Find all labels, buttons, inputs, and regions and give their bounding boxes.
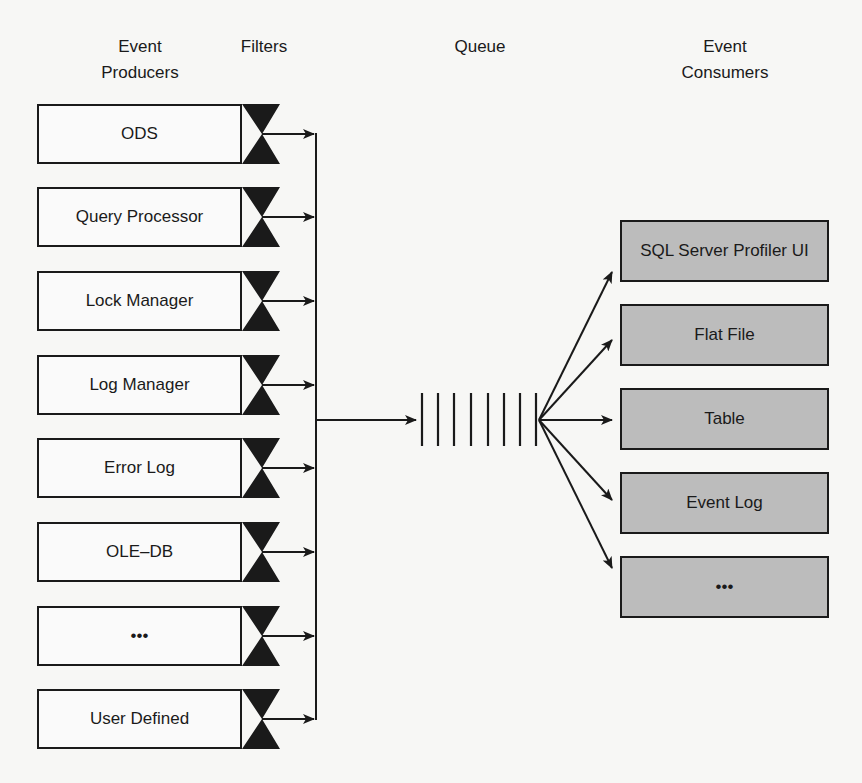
diagram-connectors xyxy=(0,0,862,783)
filter-icon xyxy=(242,271,314,331)
filter-icon xyxy=(242,522,314,582)
fanout-arrows xyxy=(539,272,612,568)
filter-icon xyxy=(242,187,314,247)
queue-icon xyxy=(422,393,536,446)
filter-icon xyxy=(242,606,314,666)
filter-icon xyxy=(242,689,314,749)
filter-icon xyxy=(242,438,314,498)
filter-icon xyxy=(242,104,314,164)
filter-icon xyxy=(242,355,314,415)
